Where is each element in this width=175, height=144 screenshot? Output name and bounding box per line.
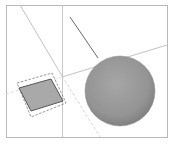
viewport-canvas[interactable] xyxy=(0,0,175,144)
3d-viewport[interactable] xyxy=(0,0,175,144)
edge-line[interactable] xyxy=(70,17,98,58)
red-axis-line xyxy=(20,5,62,76)
square-face[interactable] xyxy=(19,79,63,111)
sphere[interactable] xyxy=(85,56,155,126)
